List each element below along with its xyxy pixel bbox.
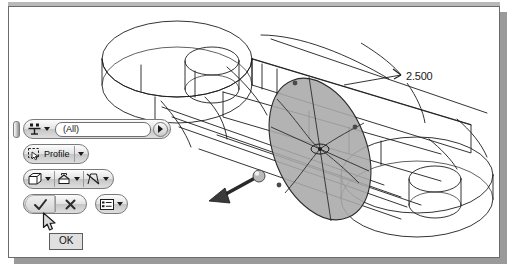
solid-extrude-button[interactable]	[25, 170, 54, 188]
check-icon	[33, 198, 48, 211]
no-taper-icon	[85, 172, 101, 186]
more-options-group	[95, 194, 128, 214]
cancel-button[interactable]	[55, 195, 85, 213]
extrude-command-bar[interactable]: (All) Profile	[13, 119, 173, 219]
ok-tooltip: OK	[49, 233, 83, 250]
options-row	[13, 169, 173, 189]
close-icon	[64, 198, 77, 211]
select-filter-button[interactable]	[25, 120, 53, 138]
more-options-button[interactable]	[97, 195, 126, 213]
profile-pick-icon	[27, 147, 42, 161]
confirm-group	[23, 194, 87, 214]
window-shadow-bottom	[14, 258, 507, 264]
mouse-cursor	[42, 212, 58, 232]
options-group	[23, 169, 114, 189]
selection-filter-value: (All)	[63, 125, 79, 134]
no-taper-button[interactable]	[83, 170, 112, 188]
expand-right-button[interactable]	[153, 122, 168, 137]
selection-filter-input[interactable]: (All)	[55, 122, 151, 137]
select-filter-icon	[27, 122, 42, 136]
profile-group: Profile	[23, 144, 89, 164]
chevron-down-icon[interactable]	[103, 177, 109, 181]
extrude-profile-preview	[250, 63, 391, 235]
ok-button[interactable]	[25, 195, 55, 213]
profile-dropdown-button[interactable]	[74, 145, 87, 163]
dimension-leader	[344, 43, 425, 123]
cad-window: 2.500	[8, 6, 500, 258]
output-surface-icon	[56, 172, 72, 186]
chevron-down-icon	[78, 152, 84, 156]
solid-extrude-icon	[27, 172, 43, 186]
output-surface-button[interactable]	[54, 170, 83, 188]
profile-button[interactable]: Profile	[25, 145, 74, 163]
chevron-down-icon[interactable]	[117, 202, 123, 206]
drag-grip[interactable]	[13, 121, 20, 138]
profile-label: Profile	[42, 150, 72, 159]
window-shadow-right	[500, 12, 507, 264]
selection-filter-row: (All)	[13, 119, 173, 139]
confirm-row	[13, 194, 173, 214]
screenshot-root: 2.500	[0, 0, 515, 273]
extrude-distance-dimension[interactable]: 2.500	[406, 70, 433, 82]
expand-right-icon	[158, 125, 163, 133]
profile-row: Profile	[13, 144, 173, 164]
chevron-down-icon[interactable]	[45, 177, 51, 181]
chevron-down-icon[interactable]	[74, 177, 80, 181]
more-options-icon	[99, 198, 115, 211]
selection-filter-group: (All)	[23, 119, 171, 139]
chevron-down-icon[interactable]	[44, 127, 50, 131]
